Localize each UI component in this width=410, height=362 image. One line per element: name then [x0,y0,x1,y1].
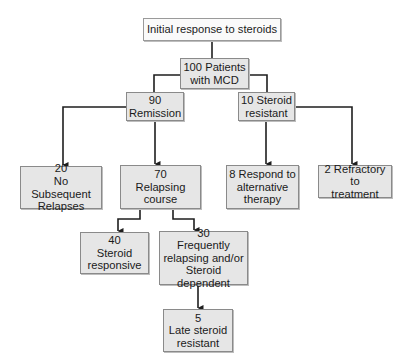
node-20-no-subsequent-relapses: 20 No Subsequent Relapses [20,166,102,209]
node-70-relapsing-course: 70 Relapsing course [120,165,201,209]
node-40-steroid-responsive: 40 Steroid responsive [80,232,149,274]
node-label: 2 Refractory to treatment [321,163,389,201]
node-label: 8 Respond to alternative therapy [229,168,296,206]
node-label: 90 Remission [129,94,181,119]
edge-resistant-refractory [294,107,352,164]
node-label: 40 Steroid responsive [87,234,141,272]
node-initial-response: Initial response to steroids [143,18,281,41]
node-90-remission: 90 Remission [126,92,184,121]
node-label: 5 Late steroid resistant [169,312,227,350]
edge-remission-norelapse [63,107,127,165]
node-30-frequently-relapsing: 30 Frequently relapsing and/or Steroid d… [159,231,248,285]
node-5-late-steroid-resistant: 5 Late steroid resistant [163,309,233,352]
node-label: 20 No Subsequent Relapses [23,162,99,212]
flowchart-canvas: Initial response to steroids 100 Patient… [0,0,410,362]
node-10-steroid-resistant: 10 Steroid resistant [238,92,295,121]
node-8-respond-alternative: 8 Respond to alternative therapy [226,165,299,209]
node-label: 100 Patients with MCD [183,61,245,86]
node-label: 10 Steroid resistant [241,94,292,119]
edge-patients-remission [154,75,181,93]
node-100-patients: 100 Patients with MCD [180,58,249,89]
node-label: 30 Frequently relapsing and/or Steroid d… [162,227,245,290]
node-label: 70 Relapsing course [136,168,186,206]
edge-relapsing-responsive [118,209,140,231]
node-label: Initial response to steroids [147,23,277,36]
edge-patients-resistant [248,75,267,93]
node-2-refractory: 2 Refractory to treatment [318,165,392,198]
